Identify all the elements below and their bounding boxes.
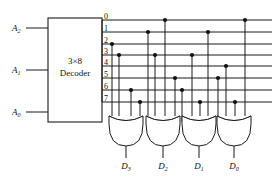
junction-dot-D3-7 bbox=[138, 100, 142, 104]
output-index-2: 2 bbox=[104, 36, 108, 45]
input-label-A0: A0 bbox=[11, 107, 21, 118]
junction-dot-D2-1 bbox=[146, 30, 150, 34]
input-label-A1: A1 bbox=[11, 65, 21, 76]
junction-dot-D3-3 bbox=[117, 53, 121, 57]
junction-dot-D2-5 bbox=[173, 76, 177, 80]
junction-dot-D1-1 bbox=[206, 30, 210, 34]
junction-dot-D2-3 bbox=[153, 53, 157, 57]
gate-output-label-D3: D3 bbox=[120, 161, 131, 172]
decoder-label-name: Decoder bbox=[60, 68, 90, 78]
circuit-diagram: A2A1A03×8Decoder01234567D3D2D1D0 bbox=[0, 0, 278, 180]
junction-dot-D2-0 bbox=[163, 18, 167, 22]
junction-dot-D0-7 bbox=[233, 100, 237, 104]
junction-dot-D0-5 bbox=[216, 76, 220, 80]
junction-dot-D3-2 bbox=[110, 42, 114, 46]
junction-dot-D0-4 bbox=[224, 64, 228, 68]
junction-dot-D3-6 bbox=[129, 88, 133, 92]
output-index-3: 3 bbox=[104, 47, 108, 56]
junction-dot-D0-0 bbox=[243, 18, 247, 22]
input-label-A2: A2 bbox=[11, 23, 21, 34]
gate-output-label-D0: D0 bbox=[228, 161, 239, 172]
output-index-1: 1 bbox=[104, 24, 108, 33]
output-index-5: 5 bbox=[104, 70, 108, 79]
diagram-canvas: A2A1A03×8Decoder01234567D3D2D1D0 bbox=[0, 0, 278, 180]
decoder-label-size: 3×8 bbox=[68, 56, 83, 66]
gate-output-label-D2: D2 bbox=[157, 161, 168, 172]
junction-dot-D1-6 bbox=[180, 88, 184, 92]
output-index-4: 4 bbox=[104, 58, 108, 67]
gate-output-label-D1: D1 bbox=[193, 161, 204, 172]
output-index-0: 0 bbox=[104, 12, 108, 21]
output-index-7: 7 bbox=[104, 94, 108, 103]
output-index-6: 6 bbox=[104, 82, 108, 91]
junction-dot-D1-3 bbox=[190, 53, 194, 57]
junction-dot-D1-7 bbox=[198, 100, 202, 104]
